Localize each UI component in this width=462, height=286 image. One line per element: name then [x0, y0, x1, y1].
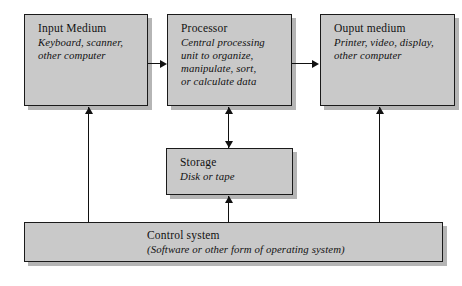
node-output-medium-title: Ouput medium: [334, 22, 454, 36]
node-control-system-subtitle-line1: (Software or other form of operating sys…: [25, 243, 442, 256]
connector-processor-to-output-arrowhead: [312, 60, 319, 68]
connector-control-to-output-line: [379, 107, 380, 222]
node-processor-title: Processor: [181, 22, 291, 36]
node-processor-subtitle-line3: manipulate, sort,: [181, 62, 291, 75]
node-input-medium-title: Input Medium: [38, 22, 147, 36]
connector-control-to-input-line: [88, 107, 89, 222]
node-storage: Storage Disk or tape: [166, 148, 293, 195]
node-output-medium-subtitle-line2: other computer: [334, 49, 454, 62]
node-input-medium-subtitle-line2: other computer: [38, 49, 147, 62]
node-control-system-title: Control system: [25, 229, 442, 243]
connector-processor-storage-arrowhead-up: [225, 107, 233, 114]
node-input-medium-subtitle-line1: Keyboard, scanner,: [38, 36, 147, 49]
connector-input-to-processor-arrowhead: [160, 60, 167, 68]
node-processor-subtitle-line4: or calculate data: [181, 75, 291, 88]
node-storage-title: Storage: [180, 156, 292, 170]
node-control-system: Control system (Software or other form o…: [24, 222, 443, 262]
node-output-medium-subtitle-line1: Printer, video, display,: [334, 36, 454, 49]
connector-processor-to-output-line: [292, 63, 314, 64]
connector-control-to-storage-arrowhead: [225, 196, 233, 203]
node-input-medium: Input Medium Keyboard, scanner, other co…: [24, 14, 148, 106]
node-processor-subtitle-line1: Central processing: [181, 36, 291, 49]
connector-control-to-output-arrowhead: [376, 107, 384, 114]
node-processor-subtitle-line2: unit to organize,: [181, 49, 291, 62]
system-block-diagram: Input Medium Keyboard, scanner, other co…: [0, 0, 462, 286]
node-processor: Processor Central processing unit to org…: [167, 14, 292, 106]
connector-processor-storage-arrowhead-down: [225, 141, 233, 148]
node-output-medium: Ouput medium Printer, video, display, ot…: [320, 14, 455, 106]
node-storage-subtitle-line1: Disk or tape: [180, 170, 292, 183]
connector-control-to-input-arrowhead: [85, 107, 93, 114]
